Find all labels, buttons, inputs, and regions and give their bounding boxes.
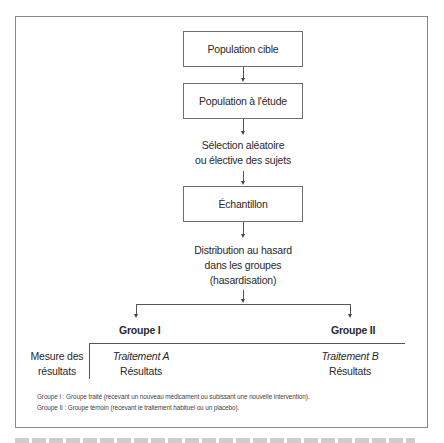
measure-label-line1: Mesure des	[28, 349, 86, 364]
node-study-population: Population à l'étude	[183, 83, 303, 119]
group1-treatment: Traitement A	[96, 349, 186, 364]
measure-label-line2: résultats	[28, 364, 86, 379]
group1-title: Groupe I	[119, 324, 161, 336]
node-sample-label: Échantillon	[218, 198, 267, 210]
node-distribution-line2: dans les groupes	[163, 258, 323, 273]
node-distribution-line1: Distribution au hasard	[163, 243, 323, 258]
node-distribution: Distribution au hasard dans les groupes …	[163, 243, 323, 288]
measure-label: Mesure des résultats	[28, 349, 86, 379]
node-sample: Échantillon	[183, 186, 303, 222]
branch-line	[136, 304, 351, 305]
node-selection-line2: ou élective des sujets	[163, 153, 323, 168]
node-target-population-label: Population cible	[208, 43, 279, 55]
arrow-down-icon	[241, 234, 245, 238]
group1-results: Traitement A Résultats	[96, 349, 186, 379]
node-study-population-label: Population à l'étude	[199, 95, 287, 107]
node-selection-line1: Sélection aléatoire	[163, 138, 323, 153]
results-top-rule	[89, 343, 405, 344]
results-left-rule	[89, 343, 90, 379]
node-distribution-line3: (hasardisation)	[163, 273, 323, 288]
arrow-down-icon	[134, 314, 138, 318]
group2-results-label: Résultats	[305, 364, 395, 379]
arrow-down-icon	[348, 314, 352, 318]
group2-title: Groupe II	[331, 324, 375, 336]
node-target-population: Population cible	[183, 31, 303, 67]
arrow-down-icon	[241, 299, 245, 303]
group2-treatment: Traitement B	[305, 349, 395, 364]
arrow-down-icon	[241, 131, 245, 135]
arrow-down-icon	[241, 78, 245, 82]
node-selection: Sélection aléatoire ou élective des suje…	[163, 138, 323, 168]
legend-line1: Groupe I : Groupe traité (recevant un no…	[37, 393, 309, 400]
arrow-down-icon	[241, 181, 245, 185]
figure-caption-truncated	[15, 438, 415, 443]
group1-results-label: Résultats	[96, 364, 186, 379]
group2-results: Traitement B Résultats	[305, 349, 395, 379]
legend-line2: Groupe II : Groupe témoin (recevant le t…	[37, 404, 239, 411]
